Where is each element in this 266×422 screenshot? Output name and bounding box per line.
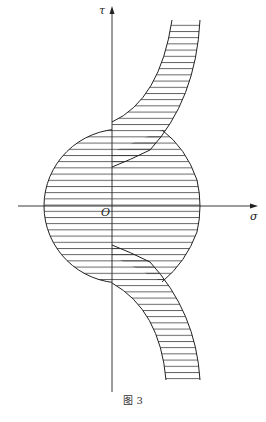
- sigma-label: σ: [250, 210, 258, 223]
- mohr-diagram: τ σ O: [0, 0, 266, 422]
- tau-arrow-icon: [110, 6, 115, 14]
- sigma-arrow-icon: [250, 204, 258, 209]
- origin-label: O: [101, 206, 110, 219]
- tau-label: τ: [99, 4, 106, 17]
- figure-caption: 图 3: [0, 392, 266, 407]
